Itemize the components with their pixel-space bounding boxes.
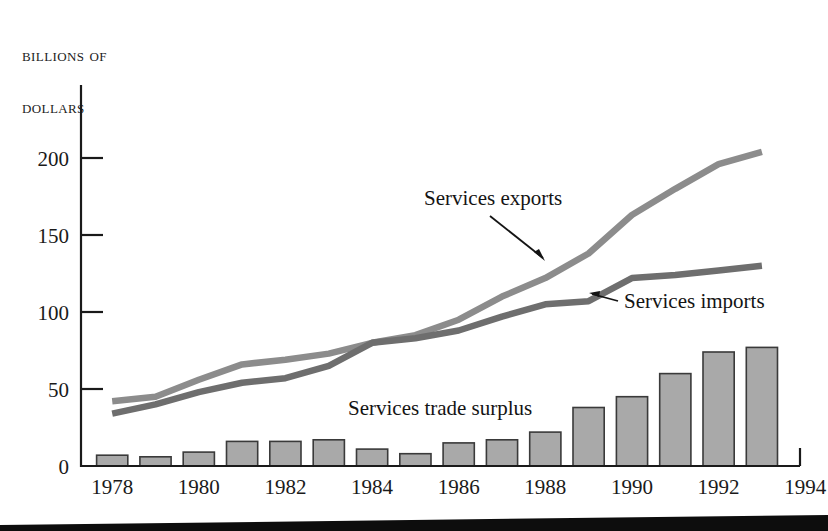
bar-1993 xyxy=(746,347,777,466)
chart-page: Billions of dollars 05010015020019781980… xyxy=(0,0,828,531)
bar-1987 xyxy=(486,440,517,466)
bar-1983 xyxy=(313,440,344,466)
scan-page-edge xyxy=(0,509,828,531)
bar-1984 xyxy=(357,449,388,466)
bar-1982 xyxy=(270,441,301,466)
y-tick-label-100: 100 xyxy=(38,301,70,325)
x-tick-label-1982: 1982 xyxy=(264,475,306,499)
x-tick-label-1994: 1994 xyxy=(784,475,827,499)
bar-1985 xyxy=(400,454,431,466)
annotation-services-trade-surplus: Services trade surplus xyxy=(348,396,532,420)
bar-1991 xyxy=(660,374,691,466)
x-tick-label-1992: 1992 xyxy=(698,475,740,499)
x-tick-label-1990: 1990 xyxy=(611,475,653,499)
annotation-services-exports: Services exports xyxy=(424,186,562,210)
services-trade-chart: 0501001502001978198019821984198619881990… xyxy=(0,0,828,531)
x-tick-label-1980: 1980 xyxy=(178,475,220,499)
y-tick-label-50: 50 xyxy=(48,378,69,402)
bar-1989 xyxy=(573,408,604,467)
x-tick-label-1984: 1984 xyxy=(351,475,394,499)
y-tick-label-150: 150 xyxy=(38,224,70,248)
bar-1990 xyxy=(616,397,647,466)
annotation-services-imports: Services imports xyxy=(624,289,765,313)
bar-1992 xyxy=(703,352,734,466)
bar-1980 xyxy=(183,452,214,466)
bar-1981 xyxy=(227,441,258,466)
bar-1979 xyxy=(140,457,171,466)
bar-1978 xyxy=(97,455,128,466)
x-tick-label-1986: 1986 xyxy=(438,475,480,499)
arrowhead-exports-icon xyxy=(534,249,545,261)
y-tick-label-0: 0 xyxy=(59,455,70,479)
x-tick-label-1988: 1988 xyxy=(524,475,566,499)
bar-1988 xyxy=(530,432,561,466)
y-tick-label-200: 200 xyxy=(38,147,70,171)
x-tick-label-1978: 1978 xyxy=(91,475,133,499)
bar-1986 xyxy=(443,443,474,466)
